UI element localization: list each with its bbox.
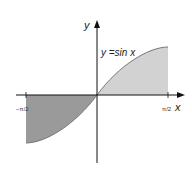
y-axis-label: y bbox=[83, 19, 91, 31]
y-axis-arrow-icon bbox=[94, 20, 100, 28]
tick-label-right: π/2 bbox=[162, 106, 172, 112]
x-axis-label: x bbox=[174, 101, 181, 113]
tick-label-left: −π/2 bbox=[16, 106, 29, 112]
curve-label: y =sin x bbox=[100, 47, 136, 58]
negative-shaded-region bbox=[26, 95, 97, 143]
x-axis-arrow-icon bbox=[177, 92, 185, 98]
sine-area-diagram: y x y =sin x −π/2 π/2 bbox=[0, 0, 192, 171]
